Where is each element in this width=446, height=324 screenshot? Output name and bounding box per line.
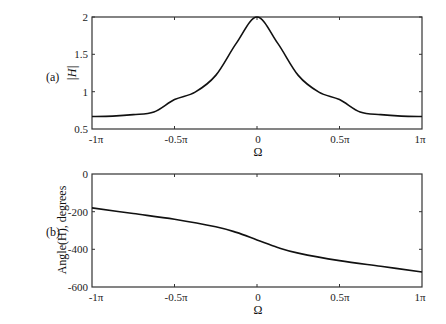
x-tick-label: -0.5π xyxy=(165,291,188,303)
x-tick-label: 0 xyxy=(255,291,261,303)
magnitude-x-axis-label: Ω xyxy=(254,145,263,159)
phase-y-axis-label: Angle(H), degrees xyxy=(55,185,69,274)
x-tick-label: -0.5π xyxy=(165,133,188,145)
y-tick-label: 1.5 xyxy=(74,48,88,60)
phase-plot: (b) Angle(H), degrees 0 -200 -400 -600 -… xyxy=(46,168,426,317)
magnitude-x-ticks xyxy=(175,17,340,129)
y-tick-label: 0 xyxy=(83,168,89,180)
panel-label-a: (a) xyxy=(46,70,59,84)
magnitude-plot: (a) |H| 2 1.5 1 0.5 -1π -0.5π 0 0.5π 1π … xyxy=(46,11,426,159)
x-tick-label: -1π xyxy=(89,133,104,145)
phase-x-axis-label: Ω xyxy=(254,303,263,317)
magnitude-axes-frame xyxy=(92,17,422,129)
magnitude-y-ticks xyxy=(92,17,422,92)
y-tick-label: 2 xyxy=(83,11,89,23)
phase-axes-frame xyxy=(92,174,422,287)
y-tick-label: -200 xyxy=(68,206,89,218)
x-tick-label: 0.5π xyxy=(330,133,350,145)
phase-curve xyxy=(92,208,422,272)
y-tick-label: -400 xyxy=(68,243,89,255)
phase-y-ticks xyxy=(92,212,422,250)
y-tick-label: -600 xyxy=(68,281,89,293)
magnitude-curve xyxy=(92,17,422,117)
x-tick-label: 0 xyxy=(255,133,261,145)
magnitude-y-axis-label: |H| xyxy=(65,65,79,80)
x-tick-label: -1π xyxy=(89,291,104,303)
y-tick-label: 0.5 xyxy=(74,123,88,135)
x-tick-label: 0.5π xyxy=(330,291,350,303)
figure: (a) |H| 2 1.5 1 0.5 -1π -0.5π 0 0.5π 1π … xyxy=(0,0,446,324)
x-tick-label: 1π xyxy=(414,133,426,145)
y-tick-label: 1 xyxy=(83,86,89,98)
x-tick-label: 1π xyxy=(414,291,426,303)
phase-x-ticks xyxy=(175,174,340,287)
